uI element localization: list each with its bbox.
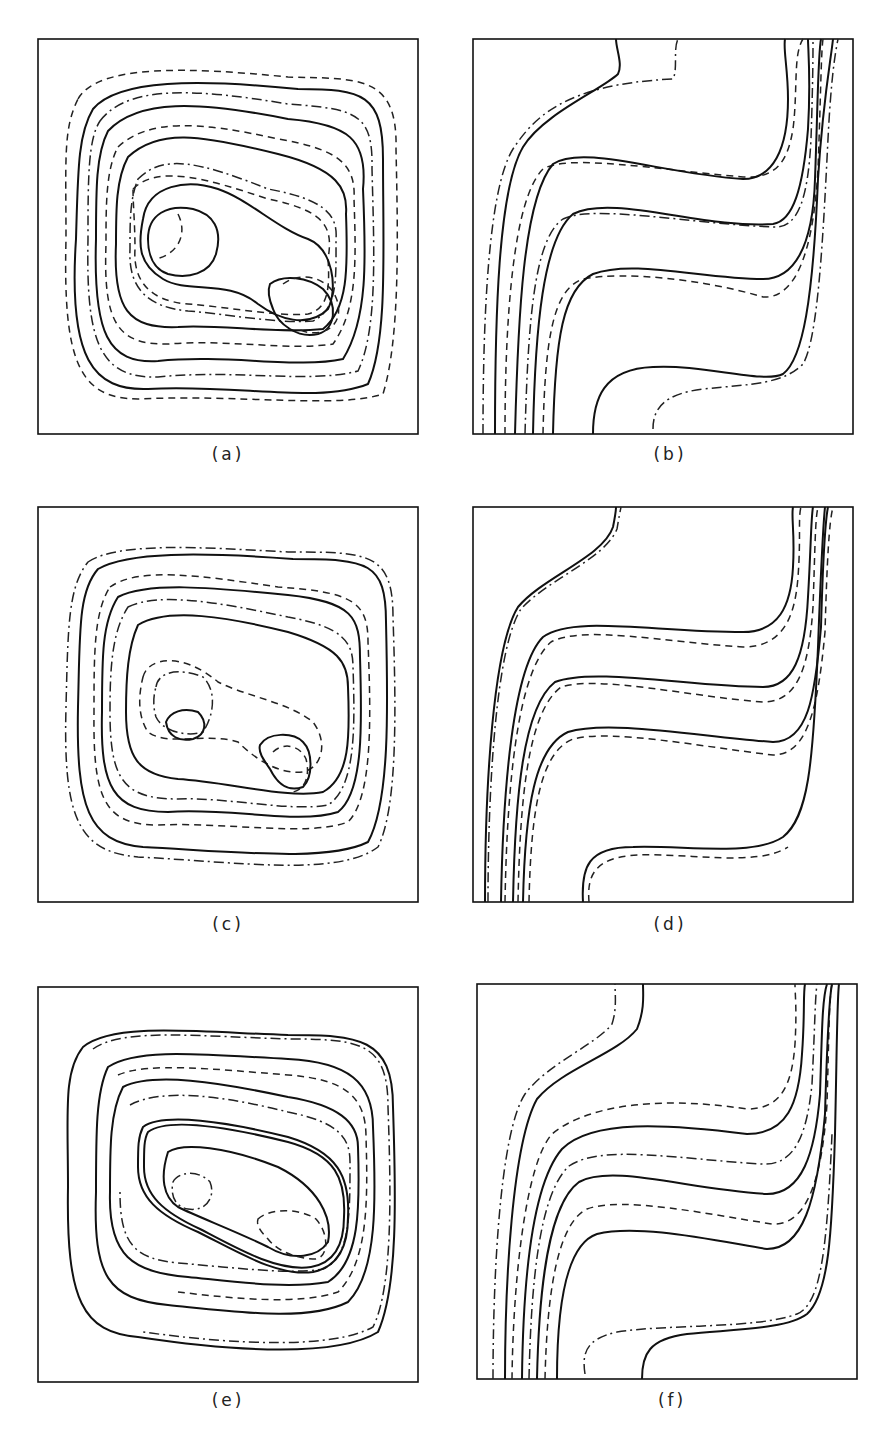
contour-plot-f: [477, 984, 857, 1379]
panel-f-isotherms: [477, 984, 857, 1379]
panel-e-streamlines: [38, 987, 418, 1382]
panel-b-isotherms: [473, 39, 853, 434]
contour-plot-d: [473, 507, 853, 902]
contour-plot-a: [38, 39, 418, 434]
panel-c-streamlines: [38, 507, 418, 902]
panel-e-caption: (e): [188, 1390, 268, 1410]
contour-plot-c: [38, 507, 418, 902]
panel-b-caption: (b): [630, 444, 710, 464]
panel-f-caption: (f): [632, 1390, 712, 1410]
panel-d-isotherms: [473, 507, 853, 902]
contour-plot-b: [473, 39, 853, 434]
panel-a-streamlines: [38, 39, 418, 434]
panel-d-caption: (d): [630, 914, 710, 934]
contour-plot-e: [38, 987, 418, 1382]
panel-a-caption: (a): [188, 444, 268, 464]
panel-c-caption: (c): [188, 914, 268, 934]
